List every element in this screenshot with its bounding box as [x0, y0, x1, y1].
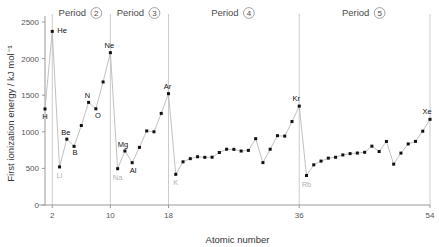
data-point-z4 — [65, 138, 68, 141]
data-point-z29 — [247, 149, 250, 152]
y-tick-label-2000: 2000 — [21, 55, 39, 64]
period-number-2: 2 — [94, 9, 99, 18]
data-point-z15 — [145, 129, 148, 132]
data-point-z26 — [225, 148, 228, 151]
data-point-z23 — [203, 156, 206, 159]
x-tick-label-2: 2 — [50, 211, 55, 220]
data-point-z3 — [58, 165, 61, 168]
data-point-z47 — [378, 150, 381, 153]
data-point-z7 — [87, 101, 90, 104]
data-point-z10 — [109, 51, 112, 54]
y-tick-label-500: 500 — [26, 164, 40, 173]
data-point-z48 — [385, 140, 388, 143]
data-point-z38 — [312, 163, 315, 166]
data-point-z24 — [211, 156, 214, 159]
data-point-z49 — [392, 163, 395, 166]
x-tick-label-36: 36 — [295, 211, 304, 220]
period-number-5: 5 — [377, 9, 382, 18]
data-point-z30 — [254, 137, 257, 140]
data-point-z22 — [196, 155, 199, 158]
data-point-z33 — [276, 134, 279, 137]
data-point-z42 — [341, 153, 344, 156]
chart-figure: 05001000150020002500210183654Atomic numb… — [0, 0, 439, 247]
element-label-K: K — [173, 178, 178, 187]
x-axis-title: Atomic number — [206, 234, 270, 245]
data-point-z12 — [123, 149, 126, 152]
data-point-z16 — [152, 130, 155, 133]
element-label-Li: Li — [57, 171, 63, 180]
element-label-Kr: Kr — [292, 94, 300, 103]
data-point-z32 — [269, 148, 272, 151]
data-point-z52 — [414, 140, 417, 143]
data-point-z44 — [356, 152, 359, 155]
element-label-B: B — [73, 148, 78, 157]
element-label-H: H — [42, 112, 47, 121]
data-point-z40 — [327, 157, 330, 160]
x-tick-label-54: 54 — [426, 211, 435, 220]
data-point-z54 — [429, 118, 432, 121]
period-number-4: 4 — [247, 9, 252, 18]
data-point-z2 — [51, 30, 54, 33]
data-point-z31 — [261, 161, 264, 164]
data-point-z37 — [305, 174, 308, 177]
y-tick-label-0: 0 — [35, 201, 40, 210]
period-label-text-4: Period — [211, 7, 238, 18]
data-point-z35 — [290, 120, 293, 123]
data-point-z27 — [232, 148, 235, 151]
element-label-Rb: Rb — [302, 180, 312, 189]
element-label-Be: Be — [61, 128, 70, 137]
data-point-z9 — [102, 80, 105, 83]
data-point-z50 — [399, 152, 402, 155]
data-point-z21 — [189, 157, 192, 160]
element-label-Ne: Ne — [105, 41, 115, 50]
data-point-z18 — [167, 92, 170, 95]
data-point-z53 — [421, 130, 424, 133]
period-number-3: 3 — [152, 9, 157, 18]
data-point-z45 — [363, 151, 366, 154]
data-point-z36 — [298, 105, 301, 108]
data-point-z39 — [320, 160, 323, 163]
y-axis-title: First ionization energy / kJ mol⁻¹ — [5, 45, 16, 181]
element-label-Na: Na — [113, 173, 123, 182]
data-point-z28 — [240, 150, 243, 153]
data-point-z1 — [44, 107, 47, 110]
data-point-z46 — [370, 145, 373, 148]
data-point-z25 — [218, 151, 221, 154]
element-label-Mg: Mg — [118, 140, 128, 149]
y-tick-label-1500: 1500 — [21, 91, 39, 100]
data-point-z17 — [160, 112, 163, 115]
element-label-N: N — [85, 91, 90, 100]
period-label-text-2: Period — [59, 7, 86, 18]
element-label-Al: Al — [130, 166, 137, 175]
data-point-z51 — [407, 142, 410, 145]
data-point-z20 — [182, 160, 185, 163]
element-label-He: He — [57, 26, 67, 35]
data-point-z6 — [80, 124, 83, 127]
data-point-z41 — [334, 156, 337, 159]
x-tick-label-10: 10 — [106, 211, 115, 220]
y-tick-label-2500: 2500 — [21, 18, 39, 27]
y-tick-label-1000: 1000 — [21, 128, 39, 137]
x-tick-label-18: 18 — [164, 211, 173, 220]
period-label-text-5: Period — [342, 7, 369, 18]
data-point-z14 — [138, 146, 141, 149]
ionization-energy-chart: 05001000150020002500210183654Atomic numb… — [0, 0, 439, 247]
data-point-z34 — [283, 135, 286, 138]
data-point-z11 — [116, 167, 119, 170]
element-label-O: O — [95, 111, 101, 120]
period-label-text-3: Period — [117, 7, 144, 18]
element-label-Ar: Ar — [164, 82, 172, 91]
data-point-z43 — [349, 152, 352, 155]
data-point-z13 — [131, 161, 134, 164]
data-point-z19 — [174, 173, 177, 176]
element-label-Xe: Xe — [422, 107, 431, 116]
series-line — [45, 31, 430, 175]
